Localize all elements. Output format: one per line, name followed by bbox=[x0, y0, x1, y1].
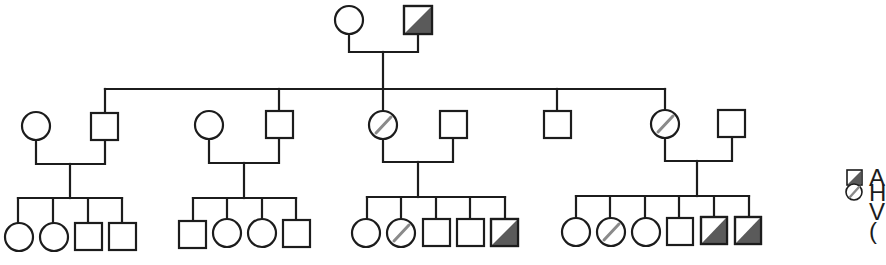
f5-offspring-5-male-affected bbox=[701, 217, 727, 244]
f2-offspring-3-female bbox=[248, 219, 276, 247]
legend bbox=[846, 170, 862, 200]
family-5 bbox=[562, 89, 761, 246]
f3-spouse-male bbox=[440, 111, 467, 138]
f5-offspring-3-female bbox=[632, 218, 660, 246]
legend-carrier-female-icon bbox=[846, 184, 862, 200]
f1-offspring-2-female bbox=[40, 223, 68, 251]
f3-offspring-2-female-carrier bbox=[387, 219, 415, 247]
f5-offspring-4-male bbox=[667, 218, 693, 245]
legend-affected-male-icon bbox=[847, 170, 862, 185]
family-2 bbox=[179, 89, 310, 248]
gen1-female-unaffected bbox=[335, 6, 363, 34]
f1-offspring-1-female bbox=[5, 223, 33, 251]
f5-offspring-6-male-affected bbox=[735, 217, 761, 244]
f4-child-male-unmarried bbox=[544, 111, 571, 138]
f3-child-female-carrier bbox=[369, 111, 397, 139]
f1-child-male bbox=[91, 113, 118, 140]
family-3 bbox=[352, 89, 518, 247]
f2-offspring-2-female bbox=[213, 219, 241, 247]
f2-spouse-female bbox=[195, 111, 223, 139]
f1-offspring-3-male bbox=[75, 223, 102, 250]
f1-offspring-4-male bbox=[109, 223, 136, 250]
f2-offspring-1-male bbox=[179, 221, 206, 248]
f2-offspring-4-male bbox=[283, 220, 310, 247]
family-1 bbox=[5, 89, 136, 251]
f3-offspring-4-male bbox=[457, 219, 484, 246]
f5-child-female-carrier bbox=[651, 110, 679, 138]
f5-offspring-2-female-carrier bbox=[597, 218, 625, 246]
gen1-mating-line bbox=[349, 34, 418, 52]
f1-spouse-female bbox=[22, 112, 50, 140]
gen1-male-affected bbox=[404, 6, 432, 34]
f5-spouse-male bbox=[718, 110, 745, 137]
legend-label-carrier-line3: ( bbox=[869, 219, 877, 243]
f3-offspring-1-female bbox=[352, 219, 380, 247]
f3-offspring-3-male bbox=[423, 219, 450, 246]
family-4 bbox=[544, 89, 571, 138]
generation-1 bbox=[335, 6, 432, 88]
f3-offspring-5-male-affected bbox=[491, 219, 518, 246]
f5-offspring-1-female bbox=[562, 218, 590, 246]
f2-child-male bbox=[266, 111, 293, 138]
